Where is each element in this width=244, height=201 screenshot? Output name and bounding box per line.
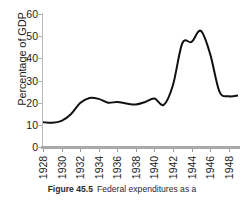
x-axis-tick-mark (173, 149, 174, 152)
x-axis-tick-labels: 1928193019321934193619381940194219441946… (0, 150, 244, 182)
y-axis-tick-label: 40 (16, 53, 38, 63)
x-axis-tick-mark (62, 149, 63, 152)
y-axis-tick-label: 30 (16, 76, 38, 86)
plot-area (43, 14, 238, 147)
x-axis-tick-mark (210, 149, 211, 152)
y-axis-tick-label: 50 (16, 31, 38, 41)
data-series-line (43, 31, 238, 123)
y-axis-tick-mark (37, 14, 42, 15)
y-axis-tick-label: 60 (16, 9, 38, 19)
x-axis-tick-mark (99, 149, 100, 152)
figure-container: Percentage of GDP 0102030405060 19281930… (0, 0, 244, 201)
x-axis-tick-label: 1934 (93, 153, 104, 183)
x-axis-tick-label: 1940 (149, 153, 160, 183)
x-axis-tick-label: 1946 (205, 153, 216, 183)
x-axis-tick-mark (80, 149, 81, 152)
x-axis-tick-label: 1938 (130, 153, 141, 183)
y-axis-tick-mark (37, 36, 42, 37)
figure-caption: Figure 45.5Federal expenditures as a (0, 184, 244, 195)
y-axis-tick-mark (37, 147, 42, 148)
x-axis-tick-label: 1936 (112, 153, 123, 183)
x-axis-tick-label: 1932 (75, 153, 86, 183)
x-axis-tick-label: 1942 (168, 153, 179, 183)
line-chart: Percentage of GDP 0102030405060 19281930… (0, 0, 244, 182)
x-axis-tick-label: 1948 (223, 153, 234, 183)
y-axis-tick-label: 10 (16, 120, 38, 130)
x-axis-tick-mark (192, 149, 193, 152)
x-axis-tick-label: 1930 (56, 153, 67, 183)
x-axis-tick-label: 1928 (38, 153, 49, 183)
x-axis-tick-mark (43, 149, 44, 152)
x-axis-tick-label: 1944 (186, 153, 197, 183)
y-axis-tick-mark (37, 58, 42, 59)
x-axis-tick-mark (136, 149, 137, 152)
y-axis-tick-mark (37, 125, 42, 126)
x-axis-tick-mark (229, 149, 230, 152)
data-line-svg (43, 14, 238, 147)
y-axis-tick-label: 20 (16, 98, 38, 108)
y-axis-tick-mark (37, 81, 42, 82)
x-axis-tick-mark (117, 149, 118, 152)
x-axis-tick-mark (154, 149, 155, 152)
figure-caption-label: Figure 45.5 (48, 184, 93, 194)
figure-caption-text: Federal expenditures as a (93, 184, 196, 194)
y-axis-tick-mark (37, 103, 42, 104)
